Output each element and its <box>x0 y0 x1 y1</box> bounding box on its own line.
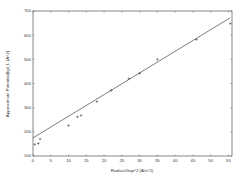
y-tick-label: 100 <box>24 153 32 158</box>
plot-frame <box>33 11 232 156</box>
x-tick-label: 5 <box>50 158 53 163</box>
data-points <box>33 22 231 145</box>
x-tick-label: 0 <box>32 158 35 163</box>
scatter-chart: 0510152025303540455055 10020030040050060… <box>0 0 245 177</box>
x-tick-label: 30 <box>137 158 142 163</box>
y-tick-label: 300 <box>24 105 32 110</box>
y-tick-label: 400 <box>24 81 32 86</box>
y-axis-ticks: 100200300400500600700 <box>24 8 232 158</box>
y-axis-label: Approximate Potential(kpl_L (A^2) <box>5 50 10 117</box>
y-tick-label: 200 <box>24 129 32 134</box>
x-tick-label: 25 <box>120 158 125 163</box>
x-tick-label: 35 <box>155 158 160 163</box>
x-tick-label: 45 <box>191 158 196 163</box>
y-tick-label: 600 <box>24 33 32 38</box>
x-tick-label: 40 <box>173 158 178 163</box>
y-tick-label: 700 <box>24 8 32 13</box>
x-tick-label: 55 <box>226 158 231 163</box>
x-tick-label: 15 <box>84 158 89 163</box>
x-tick-label: 10 <box>66 158 71 163</box>
x-axis-label: Radius/Gap^2 (A/s^2) <box>111 168 154 173</box>
y-tick-label: 500 <box>24 57 32 62</box>
fit-line <box>33 18 230 138</box>
x-tick-label: 20 <box>102 158 107 163</box>
x-tick-label: 50 <box>208 158 213 163</box>
x-axis-ticks: 0510152025303540455055 <box>32 11 232 163</box>
